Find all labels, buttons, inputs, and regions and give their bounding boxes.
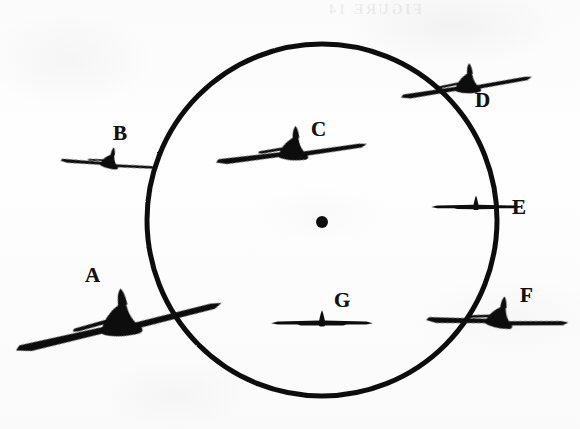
- aircraft-label-b: B: [113, 123, 127, 144]
- aircraft-label-c: C: [311, 119, 326, 140]
- aircraft-e: [431, 196, 520, 210]
- aircraft-label-f: F: [520, 285, 533, 306]
- aircraft-label-a: A: [85, 265, 100, 286]
- aircraft-label-d: D: [475, 90, 490, 111]
- aircraft-a: [11, 252, 223, 392]
- aircraft-g: [271, 310, 373, 326]
- diagram-canvas: [0, 0, 580, 429]
- aircraft-b: [60, 142, 156, 181]
- aircraft-c: [213, 106, 367, 194]
- aircraft-d: [398, 44, 532, 125]
- aircraft-label-g: G: [334, 290, 350, 311]
- circle-center-dot: [316, 216, 328, 228]
- aircraft-circle-figure: FIGURE 14: [0, 0, 580, 429]
- aircraft-label-e: E: [512, 197, 526, 218]
